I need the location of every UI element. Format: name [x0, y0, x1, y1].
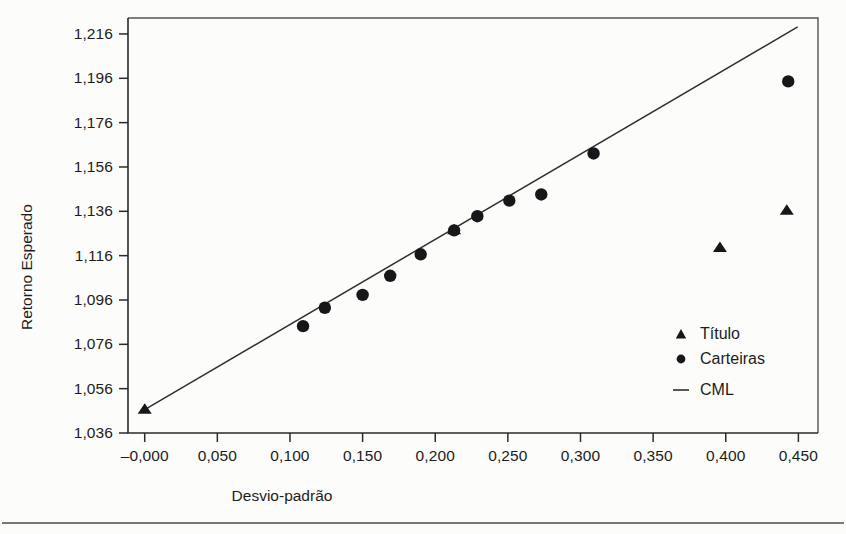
data-point-carteiras [356, 289, 368, 301]
data-point-titulo [713, 242, 727, 253]
y-axis-tick-label: 1,176 [22, 114, 113, 132]
x-axis-tick-label: –0,000 [121, 447, 169, 465]
data-point-titulo [138, 403, 152, 414]
plot-frame [128, 18, 818, 433]
data-point-carteiras [503, 194, 515, 206]
legend-line-icon [672, 381, 690, 399]
x-axis-tick-label: 0,400 [706, 447, 745, 465]
data-point-carteiras [587, 147, 599, 159]
legend-circle-icon [672, 350, 690, 368]
y-axis-tick-label: 1,196 [22, 69, 113, 87]
x-axis-tick-label: 0,200 [416, 447, 455, 465]
x-axis-tick-label: 0,050 [198, 447, 237, 465]
x-axis-tick-label: 0,350 [633, 447, 672, 465]
y-axis-tick-label: 1,036 [22, 424, 113, 442]
x-axis-tick-label: 0,100 [270, 447, 309, 465]
scatter-chart-figure: Retorno Esperado Desvio-padrão 1,0361,05… [0, 0, 846, 534]
data-point-carteiras [535, 188, 547, 200]
y-axis-tick-label: 1,096 [22, 291, 113, 309]
y-axis-tick-label: 1,056 [22, 380, 113, 398]
x-axis-tick-label: 0,450 [779, 447, 818, 465]
legend-label: Carteiras [700, 350, 765, 368]
legend-label: Título [700, 325, 740, 343]
y-axis-tick-label: 1,136 [22, 202, 113, 220]
x-axis-tick-label: 0,250 [488, 447, 527, 465]
y-axis-tick-label: 1,156 [22, 158, 113, 176]
data-point-carteiras [297, 320, 309, 332]
data-point-carteiras [448, 224, 460, 236]
data-point-carteiras [471, 210, 483, 222]
x-axis-tick-label: 0,150 [343, 447, 382, 465]
data-point-carteiras [384, 270, 396, 282]
data-point-carteiras [319, 302, 331, 314]
chart-page: Retorno Esperado Desvio-padrão 1,0361,05… [0, 0, 846, 534]
x-axis-tick-label: 0,300 [561, 447, 600, 465]
x-axis-title: Desvio-padrão [0, 487, 705, 505]
y-axis-tick-label: 1,216 [22, 25, 113, 43]
plot-axes [128, 18, 818, 433]
legend-triangle-icon [672, 325, 690, 343]
y-axis-title: Retorno Esperado [18, 204, 36, 330]
data-point-titulo [780, 204, 794, 215]
legend-label: CML [700, 381, 734, 399]
data-point-carteiras [415, 248, 427, 260]
y-axis-tick-label: 1,076 [22, 335, 113, 353]
data-point-carteiras [782, 75, 794, 87]
y-axis-tick-label: 1,116 [22, 247, 113, 265]
